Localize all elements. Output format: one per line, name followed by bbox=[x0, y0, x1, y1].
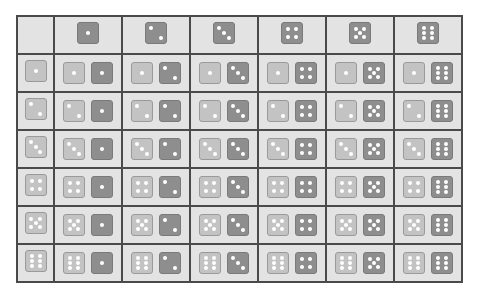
outcome-cell-5-6 bbox=[394, 206, 462, 244]
pip bbox=[417, 152, 421, 156]
outcome-cell-1-1 bbox=[54, 54, 122, 92]
light-die-2-icon bbox=[403, 100, 425, 122]
light-die-3-icon bbox=[267, 138, 289, 160]
dice-pair bbox=[259, 100, 325, 122]
pip bbox=[294, 35, 298, 39]
dark-die-5-icon bbox=[363, 62, 385, 84]
dark-die-1-icon bbox=[91, 100, 113, 122]
pip bbox=[271, 142, 275, 146]
pip bbox=[236, 223, 240, 227]
pip bbox=[368, 151, 372, 155]
table-row bbox=[17, 168, 462, 206]
dark-die-2-icon bbox=[159, 176, 181, 198]
pip bbox=[376, 67, 380, 71]
pip bbox=[212, 256, 216, 260]
light-die-2-icon bbox=[25, 98, 47, 120]
pip bbox=[76, 227, 80, 231]
pip bbox=[136, 181, 140, 185]
column-header-2 bbox=[122, 16, 190, 54]
pip bbox=[340, 261, 344, 265]
outcome-cell-2-6 bbox=[394, 92, 462, 130]
dice-pair bbox=[395, 252, 461, 274]
outcome-cell-2-1 bbox=[54, 92, 122, 130]
pip bbox=[145, 152, 149, 156]
dark-die-3-icon bbox=[227, 252, 249, 274]
pip bbox=[444, 76, 448, 80]
pip bbox=[286, 27, 290, 31]
pip bbox=[204, 189, 208, 193]
pip bbox=[231, 66, 235, 70]
pip bbox=[436, 256, 440, 260]
pip bbox=[241, 114, 245, 118]
pip bbox=[68, 219, 72, 223]
pip bbox=[349, 152, 353, 156]
row-header-6 bbox=[17, 244, 54, 282]
pip bbox=[67, 104, 71, 108]
pip bbox=[444, 266, 448, 270]
dark-die-5-icon bbox=[363, 138, 385, 160]
pip bbox=[29, 225, 33, 229]
pip bbox=[376, 113, 380, 117]
pip bbox=[340, 189, 344, 193]
pip bbox=[444, 223, 448, 227]
pip bbox=[144, 227, 148, 231]
pip bbox=[149, 26, 153, 30]
pip bbox=[416, 261, 420, 265]
pip bbox=[339, 104, 343, 108]
light-die-4-icon bbox=[335, 176, 357, 198]
pip bbox=[271, 104, 275, 108]
dark-die-2-icon bbox=[159, 214, 181, 236]
dice-pair bbox=[191, 62, 257, 84]
pip bbox=[241, 266, 245, 270]
pip bbox=[212, 219, 216, 223]
pip bbox=[340, 227, 344, 231]
light-die-6-icon bbox=[335, 252, 357, 274]
pip bbox=[217, 26, 221, 30]
pip bbox=[436, 228, 440, 232]
pip bbox=[300, 113, 304, 117]
pip bbox=[231, 180, 235, 184]
dark-die-1-icon bbox=[91, 252, 113, 274]
pip bbox=[280, 181, 284, 185]
pip bbox=[76, 256, 80, 260]
pip bbox=[412, 71, 416, 75]
pip bbox=[144, 181, 148, 185]
pip bbox=[30, 187, 34, 191]
light-die-5-icon bbox=[25, 212, 47, 234]
pip bbox=[436, 104, 440, 108]
dark-die-2-icon bbox=[159, 252, 181, 274]
pip bbox=[308, 113, 312, 117]
pip bbox=[436, 71, 440, 75]
dice-pair bbox=[123, 100, 189, 122]
table-row bbox=[17, 92, 462, 130]
dice-pair bbox=[123, 138, 189, 160]
pip bbox=[136, 189, 140, 193]
pip bbox=[212, 181, 216, 185]
pip bbox=[144, 261, 148, 265]
light-die-1-icon bbox=[335, 62, 357, 84]
outcome-cell-4-2 bbox=[122, 168, 190, 206]
pip bbox=[241, 152, 245, 156]
pip bbox=[368, 227, 372, 231]
light-die-5-icon bbox=[63, 214, 85, 236]
dice-pair bbox=[327, 62, 393, 84]
outcome-cell-1-2 bbox=[122, 54, 190, 92]
pip bbox=[436, 190, 440, 194]
dark-die-2-icon bbox=[159, 62, 181, 84]
column-header-5 bbox=[326, 16, 394, 54]
pip bbox=[300, 181, 304, 185]
outcome-cell-3-2 bbox=[122, 130, 190, 168]
dice-pair bbox=[395, 138, 461, 160]
pip bbox=[362, 27, 366, 31]
pip bbox=[376, 151, 380, 155]
pip bbox=[368, 219, 372, 223]
pip bbox=[436, 147, 440, 151]
pip bbox=[308, 257, 312, 261]
pip bbox=[38, 187, 42, 191]
pip bbox=[308, 181, 312, 185]
pip bbox=[272, 181, 276, 185]
pip bbox=[300, 257, 304, 261]
pip bbox=[212, 189, 216, 193]
pip bbox=[280, 227, 284, 231]
pip bbox=[340, 256, 344, 260]
